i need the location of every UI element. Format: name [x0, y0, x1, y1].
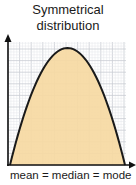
- caption: mean = median = mode: [10, 168, 131, 182]
- y-axis: [5, 34, 12, 166]
- y-axis-arrow-icon: [5, 34, 12, 42]
- distribution-chart: [0, 0, 136, 185]
